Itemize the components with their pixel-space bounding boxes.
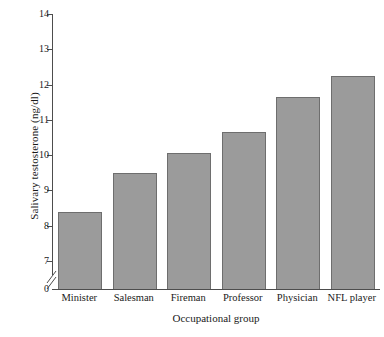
bar-chart: Salivary testosterone (ng/dl) 7891011121… — [0, 0, 384, 337]
x-axis-title: Occupational group — [52, 312, 380, 324]
x-tick-label-minister: Minister — [52, 291, 107, 305]
x-axis-tick-labels: MinisterSalesmanFiremanProfessorPhysicia… — [52, 291, 380, 307]
bar-minister — [58, 212, 102, 289]
y-origin-label: 0 — [44, 284, 49, 294]
y-tick-label: 12 — [39, 80, 49, 90]
bar-physician — [276, 97, 320, 289]
y-tick-label: 14 — [39, 9, 49, 19]
x-tick-label-salesman: Salesman — [107, 291, 162, 305]
bars-group — [53, 14, 380, 289]
y-tick-label: 13 — [39, 44, 49, 54]
bar-professor — [222, 132, 266, 289]
x-tick-label-professor: Professor — [216, 291, 271, 305]
bar-nfl-player — [331, 76, 375, 289]
y-tick-label: 7 — [44, 256, 49, 266]
y-tick-label: 9 — [44, 185, 49, 195]
y-tick-label: 10 — [39, 150, 49, 160]
x-axis-spine — [52, 289, 380, 290]
bar-salesman — [113, 173, 157, 289]
x-tick-label-nfl-player: NFL player — [325, 291, 380, 305]
x-tick-label-physician: Physician — [270, 291, 325, 305]
bar-fireman — [167, 153, 211, 289]
y-tick-label: 8 — [44, 221, 49, 231]
y-tick-label: 11 — [39, 115, 49, 125]
plot-area: 78910111213140 — [52, 14, 380, 289]
x-tick-label-fireman: Fireman — [161, 291, 216, 305]
